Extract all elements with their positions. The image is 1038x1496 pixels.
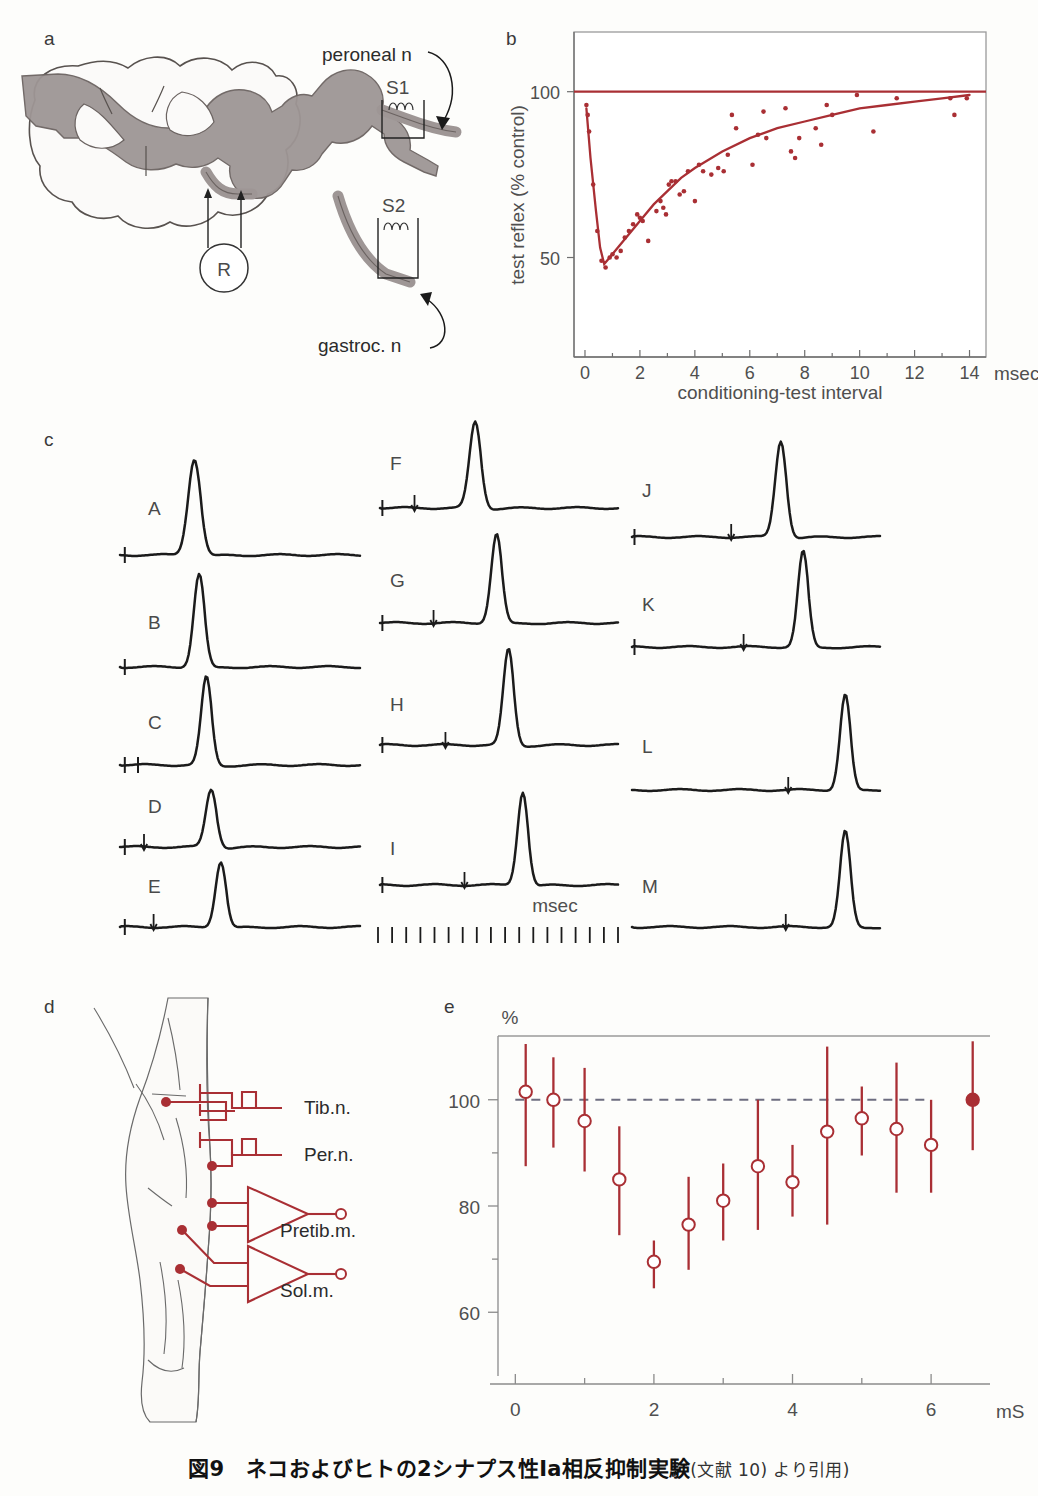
panel-b-point — [623, 235, 628, 240]
panel-b-point — [965, 96, 970, 101]
panel-d-label: d — [44, 996, 55, 1018]
panel-e-marker-open — [856, 1112, 868, 1124]
panel-a: a R S1 S2 — [0, 0, 490, 400]
panel-b-label: b — [506, 28, 517, 50]
panel-c-trace-f — [380, 422, 618, 510]
panel-e-marker-open — [648, 1256, 660, 1268]
panel-b-chart: 02468101214 50100 conditioning-test inte… — [490, 0, 1038, 410]
panel-c-trace-j — [632, 442, 880, 538]
s1-label: S1 — [386, 77, 409, 98]
panel-b-point — [730, 113, 735, 118]
gastroc-callout-head — [420, 292, 432, 306]
panel-b-point — [654, 209, 659, 214]
sol-electrode-dot-2 — [175, 1264, 185, 1274]
panel-c-column-middle: FGHI — [380, 422, 618, 894]
leg-diagram — [0, 980, 445, 1430]
panel-e-marker-open — [717, 1195, 729, 1207]
panel-b-point — [646, 239, 651, 244]
sol-output-terminal — [336, 1269, 346, 1279]
panel-b-point — [721, 169, 726, 174]
panel-c-trace-g — [380, 534, 618, 624]
panel-b-point — [761, 109, 766, 114]
pretib-electrode-dot-2 — [207, 1221, 217, 1231]
panel-c-trace-label-k: K — [642, 594, 655, 615]
panel-e-xticklabel: 0 — [510, 1399, 521, 1420]
panel-e-chart: % 6080100 0246 mS — [430, 980, 1038, 1440]
panel-e-marker-open — [613, 1173, 625, 1185]
panel-b-point — [585, 113, 590, 118]
panel-b-point — [677, 192, 682, 197]
panel-c-column-right: JKLM — [632, 442, 880, 930]
gastroc-callout-arrow — [428, 300, 445, 348]
panel-b-yaxis: 50100 — [530, 32, 574, 357]
panel-b-point — [783, 106, 788, 111]
panel-b-point — [610, 252, 615, 257]
panel-b-point — [819, 143, 824, 148]
panel-c-column-left: ABCDE — [120, 461, 360, 936]
panel-e-marker-open — [547, 1094, 559, 1106]
panel-c-time-scalebar — [378, 927, 618, 943]
panel-b-point — [824, 103, 829, 108]
figure-caption-title: 図9 ネコおよびヒトの2シナプス性Ia相反抑制実験 — [188, 1457, 690, 1481]
panel-e-yticklabel: 80 — [459, 1197, 480, 1218]
sol-electrode-dot-1 — [177, 1225, 187, 1235]
panel-c-trace-label-f: F — [390, 453, 402, 474]
peroneal-nerve-label: peroneal n — [322, 44, 412, 66]
panel-b-point — [603, 265, 608, 270]
panel-b-point — [693, 199, 698, 204]
per-electrode-dot — [207, 1161, 217, 1171]
panel-e-marker-open — [578, 1115, 590, 1127]
panel-b-point — [673, 179, 678, 184]
panel-e-xticklabel: 4 — [787, 1399, 798, 1420]
panel-b-point — [830, 113, 835, 118]
panel-e: e % 6080100 0246 mS — [430, 980, 1038, 1440]
peroneal-callout-arrow — [428, 52, 452, 120]
panel-e-yticklabel: 60 — [459, 1303, 480, 1324]
panel-a-label: a — [44, 28, 55, 50]
panel-b-point — [631, 222, 636, 227]
panel-b-xticklabel: 10 — [850, 363, 870, 383]
panel-b-point — [716, 166, 721, 171]
spinal-cord-diagram: R S1 S2 — [0, 0, 490, 400]
panel-b-point — [669, 179, 674, 184]
panel-e-marker-open — [520, 1086, 532, 1098]
pretib-output-terminal — [336, 1209, 346, 1219]
panel-b-point — [764, 136, 769, 141]
panel-b-point — [614, 255, 619, 260]
panel-c: c ABCDE FGHI JKLM msec — [0, 415, 1038, 975]
panel-c-trace-label-m: M — [642, 876, 658, 897]
panel-b-point — [697, 162, 702, 167]
panel-b-point — [627, 229, 632, 234]
panel-b-yticklabel: 100 — [530, 83, 560, 103]
panel-b-point — [952, 113, 957, 118]
pretib-muscle-label: Pretib.m. — [280, 1220, 356, 1242]
panel-b-point — [661, 206, 666, 211]
panel-b-point — [682, 189, 687, 194]
per-nerve-label: Per.n. — [304, 1144, 354, 1166]
panel-e-marker-open — [682, 1218, 694, 1230]
panel-c-trace-l — [632, 695, 880, 791]
panel-b-point — [658, 199, 663, 204]
panel-c-trace-i — [380, 793, 618, 886]
leg-outline — [126, 998, 211, 1422]
panel-c-trace-label-c: C — [148, 712, 162, 733]
panel-b-point — [948, 96, 953, 101]
panel-e-xticks — [515, 1374, 931, 1384]
panel-b-point — [584, 103, 589, 108]
panel-b-point — [587, 129, 592, 134]
panel-b-yticklabel: 50 — [540, 249, 560, 269]
panel-b-ylabel: test reflex (% control) — [507, 105, 528, 285]
gastroc-nerve-label: gastroc. n — [318, 335, 401, 357]
panel-e-xticklabel: 2 — [649, 1399, 660, 1420]
figure-caption-source: (文献 10) より引用) — [690, 1460, 850, 1480]
panel-b-xticklabel: 12 — [905, 363, 925, 383]
panel-c-trace-h — [380, 649, 618, 747]
panel-b-point — [894, 96, 899, 101]
panel-b-point — [686, 169, 691, 174]
panel-e-xlabels: 0246 — [510, 1399, 936, 1420]
panel-e-ylabels: 6080100 — [448, 1091, 480, 1325]
panel-b-point — [797, 136, 802, 141]
panel-b-xunit: msec — [994, 363, 1038, 384]
s2-label: S2 — [382, 195, 405, 216]
panel-e-yticklabel: 100 — [448, 1091, 480, 1112]
